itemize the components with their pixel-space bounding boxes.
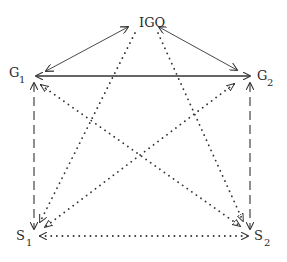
node-s2-label: S bbox=[254, 228, 263, 243]
node-s1-subscript: 1 bbox=[26, 237, 32, 248]
node-g1-label: G bbox=[9, 65, 19, 80]
node-g1-subscript: 1 bbox=[19, 74, 25, 85]
node-g1: G 1 bbox=[9, 65, 25, 85]
edge-igo-g2 bbox=[159, 27, 237, 70]
node-g2-subscript: 2 bbox=[267, 77, 273, 88]
edge-igo-s2 bbox=[158, 33, 243, 221]
node-s2-subscript: 2 bbox=[264, 237, 270, 248]
node-s2: S 2 bbox=[254, 228, 270, 248]
node-g2: G 2 bbox=[257, 68, 273, 88]
network-diagram: IGO G 1 G 2 S 1 S 2 bbox=[0, 0, 287, 262]
node-s1: S 1 bbox=[16, 228, 32, 248]
edge-igo-g1 bbox=[46, 27, 128, 71]
edge-igo-s1 bbox=[40, 33, 135, 222]
edge-g2-s1 bbox=[45, 84, 234, 227]
node-g2-label: G bbox=[257, 68, 267, 83]
node-s1-label: S bbox=[16, 228, 25, 243]
